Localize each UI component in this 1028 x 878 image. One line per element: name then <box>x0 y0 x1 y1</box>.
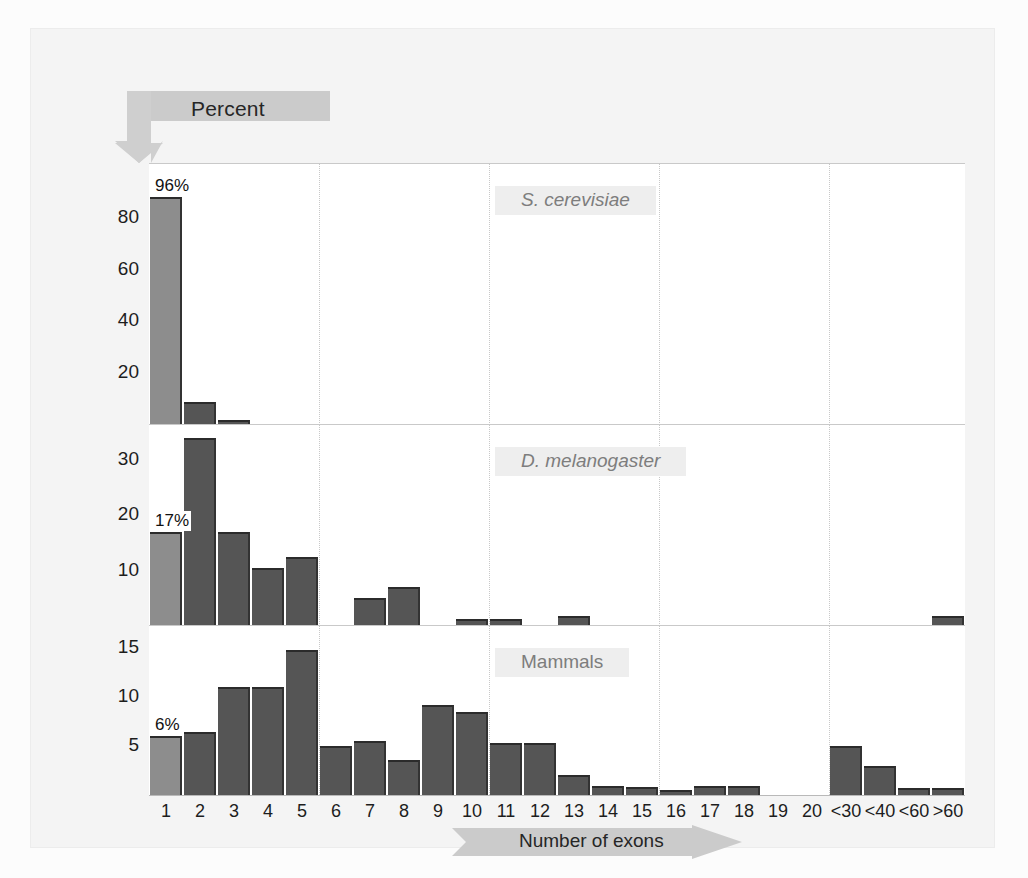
gridline-vertical <box>319 164 320 425</box>
gridline-vertical <box>319 425 320 626</box>
gridline-vertical <box>489 164 490 425</box>
x-axis-tick-label: >60 <box>927 801 969 822</box>
bar <box>286 650 318 795</box>
bar-value-label: 96% <box>153 176 191 196</box>
bar <box>898 788 930 795</box>
bar <box>388 760 420 795</box>
bar <box>150 197 182 425</box>
bar <box>218 687 250 795</box>
y-axis-tick-label: 10 <box>93 559 139 581</box>
bar <box>490 743 522 795</box>
bar <box>252 568 284 626</box>
figure-page: Percent 96%S. cerevisiae 17%D. melanogas… <box>0 0 1028 878</box>
bar <box>524 743 556 795</box>
y-axis-tick-label: 80 <box>93 206 139 228</box>
gridline-vertical <box>659 626 660 795</box>
y-axis-title: Percent <box>191 97 265 121</box>
bar <box>626 787 658 795</box>
x-axis-tick-labels: 1234567891011121314151617181920<30<40<60… <box>149 801 965 827</box>
bar <box>354 598 386 626</box>
gridline-vertical <box>829 164 830 425</box>
y-axis-tick-label: 30 <box>93 448 139 470</box>
panel-title: Mammals <box>495 648 629 677</box>
bar <box>286 557 318 626</box>
y-axis-tick-label: 60 <box>93 258 139 280</box>
bar <box>150 532 182 626</box>
bar <box>830 746 862 795</box>
bar <box>932 788 964 795</box>
gridline-vertical <box>659 164 660 425</box>
bar-value-label: 17% <box>153 511 191 531</box>
bar <box>150 736 182 795</box>
panel-s-cerevisiae: 96%S. cerevisiae <box>149 163 965 425</box>
bar <box>218 532 250 626</box>
bar <box>184 402 216 425</box>
bar <box>388 587 420 626</box>
gridline-vertical <box>829 425 830 626</box>
bar <box>184 732 216 795</box>
y-axis-tick-label: 20 <box>93 503 139 525</box>
bar <box>354 741 386 795</box>
bar <box>558 775 590 795</box>
bar <box>252 687 284 795</box>
x-axis-title: Number of exons <box>519 830 664 852</box>
y-axis-tick-label: 40 <box>93 309 139 331</box>
panel-title: S. cerevisiae <box>495 186 656 215</box>
y-axis-tick-label: 15 <box>93 636 139 658</box>
bar <box>694 786 726 795</box>
bar <box>422 705 454 795</box>
y-axis-tick-label: 5 <box>93 734 139 756</box>
panel-d-melanogaster: 17%D. melanogaster <box>149 424 965 626</box>
panel-mammals: 6%Mammals <box>149 625 965 796</box>
y-axis-tick-label: 20 <box>93 361 139 383</box>
figure-frame: Percent 96%S. cerevisiae 17%D. melanogas… <box>30 28 995 848</box>
bar <box>456 712 488 796</box>
bar <box>592 786 624 795</box>
panel-title: D. melanogaster <box>495 447 686 476</box>
y-axis-tick-label: 10 <box>93 685 139 707</box>
plot-area: 96%S. cerevisiae 17%D. melanogaster 6%Ma… <box>149 163 965 794</box>
bar <box>728 786 760 795</box>
bar <box>864 766 896 795</box>
bar <box>660 790 692 795</box>
bar <box>184 438 216 626</box>
bar-value-label: 6% <box>153 715 182 735</box>
bar <box>320 746 352 795</box>
gridline-vertical <box>489 425 490 626</box>
